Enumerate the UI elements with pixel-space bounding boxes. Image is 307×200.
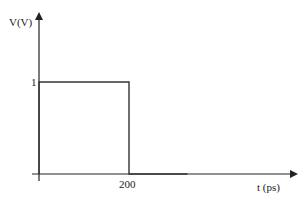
y-tick-label-1: 1 xyxy=(31,77,37,88)
y-axis-label: V(V) xyxy=(9,17,32,28)
pulse-chart xyxy=(0,0,307,200)
x-axis-label: t (ps) xyxy=(257,182,280,193)
pulse-line xyxy=(39,82,188,174)
x-tick-label-200: 200 xyxy=(119,179,136,190)
